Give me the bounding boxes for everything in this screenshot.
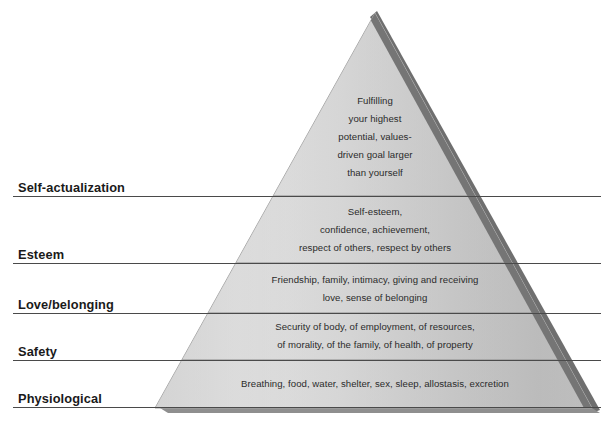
- tier-text-line: driven goal larger: [337, 149, 413, 160]
- tier-text-line: respect of others, respect by others: [299, 242, 451, 253]
- tier-text-line: Self-esteem,: [348, 206, 402, 217]
- tier-label-group: Self-actualization Esteem Love/belonging…: [18, 180, 125, 406]
- tier-label-love-belonging: Love/belonging: [18, 297, 114, 312]
- tier-text-line: Fulfilling: [357, 95, 393, 106]
- tier-text-line: confidence, achievement,: [320, 224, 430, 235]
- tier-label-physiological: Physiological: [18, 391, 102, 406]
- tier-text-line: Friendship, family, intimacy, giving and…: [272, 274, 479, 285]
- tier-text-line: than yourself: [347, 167, 403, 178]
- tier-text-line: love, sense of belonging: [323, 292, 428, 303]
- tier-label-self-actualization: Self-actualization: [18, 180, 125, 195]
- tier-text-line: of morality, of the family, of health, o…: [277, 339, 473, 350]
- tier-text-line: Breathing, food, water, shelter, sex, sl…: [241, 378, 509, 389]
- tier-text-line: your highest: [349, 113, 402, 124]
- diagram-canvas: Self-actualization Esteem Love/belonging…: [0, 0, 601, 422]
- tier-content-physiological: Breathing, food, water, shelter, sex, sl…: [241, 378, 509, 389]
- tier-label-esteem: Esteem: [18, 247, 64, 262]
- tier-text-line: potential, values-: [338, 131, 411, 142]
- maslow-pyramid-diagram: Self-actualization Esteem Love/belonging…: [0, 0, 601, 422]
- tier-text-line: Security of body, of employment, of reso…: [275, 321, 474, 332]
- tier-label-safety: Safety: [18, 344, 58, 359]
